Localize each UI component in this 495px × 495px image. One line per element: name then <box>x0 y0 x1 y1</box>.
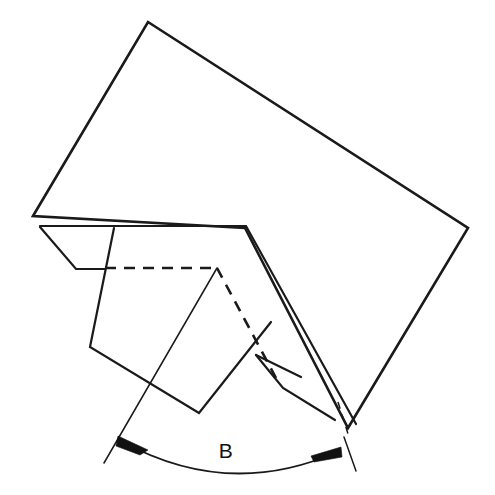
technical-drawing-canvas: B <box>0 0 495 495</box>
figure-root: B <box>0 0 495 495</box>
angle-dimension-label: B <box>219 439 234 462</box>
